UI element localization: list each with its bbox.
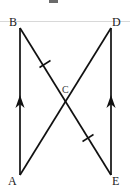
vertex-label-a: A (8, 175, 17, 187)
vertex-label-e: E (112, 175, 119, 187)
geometry-figure: B D A E C (0, 0, 130, 193)
vertex-label-d: D (112, 16, 121, 28)
congruence-tick-lower-icon (83, 135, 94, 142)
figure-canvas (0, 0, 130, 193)
vertex-label-b: B (9, 16, 17, 28)
vertex-label-c: C (62, 85, 69, 95)
